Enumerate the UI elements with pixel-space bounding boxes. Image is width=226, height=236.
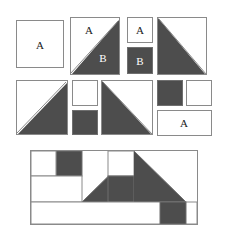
wide-rect-a bbox=[157, 110, 212, 136]
small-square-dark bbox=[72, 110, 98, 135]
tile-puzzle-figure: A A B A B bbox=[0, 0, 226, 236]
assembly bbox=[30, 150, 198, 225]
triangle-lower-left-2 bbox=[101, 80, 153, 135]
small-square-light-2 bbox=[186, 80, 212, 106]
square-a bbox=[16, 20, 64, 68]
small-square-light bbox=[72, 80, 98, 106]
small-square-dark-2 bbox=[157, 80, 183, 106]
small-square-a bbox=[127, 17, 153, 43]
split-square-ab bbox=[70, 17, 120, 75]
triangle-lower-left bbox=[157, 17, 207, 75]
small-square-b bbox=[127, 47, 153, 74]
triangle-lower-right bbox=[16, 80, 68, 135]
